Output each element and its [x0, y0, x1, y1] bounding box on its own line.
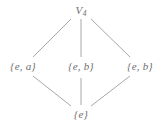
node-v4-base: V: [76, 4, 83, 16]
node-subgroup-e-a: {e, a}: [9, 61, 37, 72]
edge-right-to-bottom: [91, 76, 130, 106]
node-trivial-subgroup-e: {e}: [73, 109, 89, 120]
node-v4: V4: [75, 5, 88, 16]
node-subgroup-e-b-right: {e, b}: [126, 61, 154, 72]
node-subgroup-e-b-middle: {e, b}: [67, 61, 95, 72]
edge-left-to-bottom: [33, 76, 71, 106]
edge-top-to-right: [91, 19, 130, 57]
hasse-diagram-figure: V4 {e, a} {e, b} {e, b} {e}: [0, 0, 163, 132]
edge-top-to-left: [33, 19, 71, 57]
node-v4-subscript: 4: [83, 9, 87, 18]
